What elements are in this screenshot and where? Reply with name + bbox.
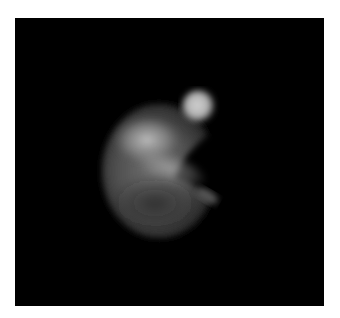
crescent-object [15,18,324,306]
image-panel [15,18,324,306]
